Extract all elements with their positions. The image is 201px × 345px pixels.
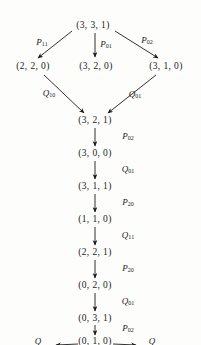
edge-operator-label: Q01: [129, 89, 142, 100]
edge-operator-label: Q: [149, 336, 156, 345]
node-value: (3, 0, 0): [78, 148, 112, 158]
node-value: (2, 2, 1): [78, 247, 112, 257]
edge-operator-label: Q: [35, 336, 42, 345]
edge-operator-label: P20: [122, 263, 134, 274]
node-value: (3, 2, 1): [78, 115, 112, 125]
node-value: (0, 2, 0): [78, 280, 112, 290]
edge-operator-label: P01: [100, 39, 112, 50]
edge-operator-label: Q11: [122, 230, 134, 241]
edge-operator-label: P02: [122, 131, 134, 142]
node-value: (1, 1, 0): [78, 214, 112, 224]
state-transition-diagram: (3, 3, 1) (2, 2, 0) (3, 2, 0) (3, 1, 0) …: [0, 0, 201, 345]
node-value: (3, 1, 1): [78, 181, 112, 191]
edge-operator-label: P02: [141, 35, 153, 46]
edge-operator-label: P02: [122, 323, 134, 334]
node-value: (3, 2, 0): [79, 61, 113, 71]
edge-operator-label: P11: [36, 37, 47, 48]
node-value: (3, 1, 0): [149, 61, 183, 71]
edge-operator-label: P20: [122, 197, 134, 208]
edge-operator-label: Q01: [122, 164, 135, 175]
edge-operator-label: Q10: [43, 88, 56, 99]
edge-operator-label: Q01: [122, 296, 135, 307]
node-value: (2, 2, 0): [16, 61, 50, 71]
node-value: (0, 1, 0): [78, 336, 112, 345]
node-value: (3, 3, 1): [76, 20, 110, 30]
node-value: (0, 3, 1): [78, 313, 112, 323]
diagram-edges: [0, 0, 201, 345]
